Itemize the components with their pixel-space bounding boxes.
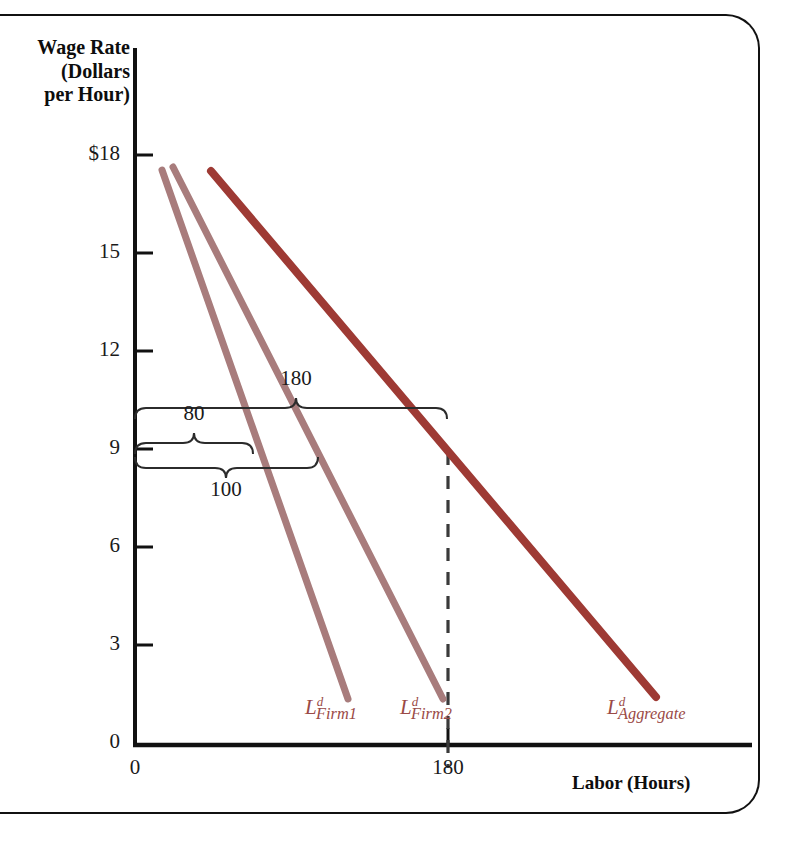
curve-label-firm1: LdFirm1 [305, 694, 357, 724]
curve-label-aggregate-subscript: Aggregate [618, 704, 686, 723]
curve-firm2 [173, 167, 443, 699]
y-tick-label-0: 0 [40, 729, 120, 754]
curve-firm1 [162, 170, 348, 699]
x-tick-label-180: 180 [418, 755, 478, 780]
y-tick-label-15: 15 [40, 239, 120, 264]
y-axis-title: Wage Rate (Dollars per Hour) [12, 36, 130, 107]
y-tick-label-9: 9 [40, 435, 120, 460]
curve-label-firm2: LdFirm2 [400, 694, 452, 724]
curve-label-firm1-subscript: Firm1 [316, 704, 357, 723]
y-tick-label-6: 6 [40, 533, 120, 558]
x-tick-label-0: 0 [105, 755, 165, 780]
figure-container: Wage Rate (Dollars per Hour) Labor (Hour… [0, 0, 799, 852]
brace-label-100: 100 [186, 477, 266, 502]
y-tick-label-12: 12 [40, 337, 120, 362]
curve-label-firm1-main: L [305, 695, 317, 719]
curve-label-aggregate-main: L [607, 695, 619, 719]
y-tick-label-18: $18 [40, 141, 120, 166]
brace-label-180: 180 [256, 366, 336, 391]
curve-label-firm2-main: L [400, 695, 412, 719]
y-axis-ticks [135, 155, 153, 645]
x-axis-title: Labor (Hours) [572, 772, 762, 794]
brace-80 [135, 433, 253, 454]
curve-label-aggregate: LdAggregate [607, 694, 686, 724]
brace-100 [135, 457, 318, 478]
curve-label-firm2-subscript: Firm2 [411, 704, 452, 723]
y-tick-label-3: 3 [40, 631, 120, 656]
curve-aggregate [211, 171, 656, 697]
brace-label-80: 80 [154, 401, 234, 426]
